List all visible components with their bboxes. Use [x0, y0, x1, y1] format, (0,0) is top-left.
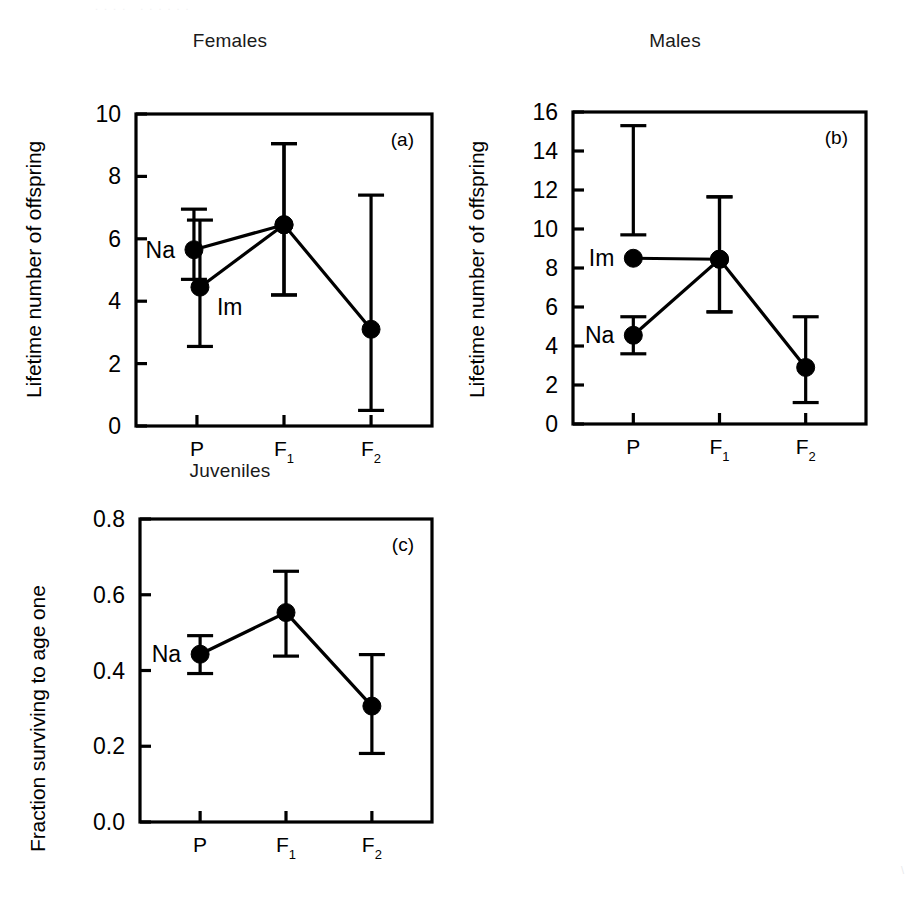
series-inline-label: Na: [585, 322, 615, 348]
plot-frame: [140, 519, 432, 822]
x-tick-label: F1: [709, 435, 729, 464]
corner-artifact: \: [901, 864, 904, 876]
x-tick-label: F2: [362, 833, 382, 862]
panel-label: (c): [392, 534, 414, 555]
y-tick-label: 0: [545, 411, 558, 437]
x-tick-label: F1: [276, 833, 296, 862]
data-point-marker: [277, 604, 295, 622]
x-tick-subscript: 1: [722, 449, 729, 464]
y-tick-label: 4: [108, 288, 121, 314]
data-point-marker: [275, 216, 293, 234]
y-tick-label: 0.6: [93, 582, 125, 608]
series-inline-label: Im: [217, 294, 243, 320]
data-point-marker: [191, 278, 209, 296]
series-inline-label: Na: [152, 641, 182, 667]
panel-c-plot: 0.00.20.40.60.8PF1F2(c)Na: [0, 460, 460, 880]
y-tick-label: 8: [545, 255, 558, 281]
error-bar: [620, 126, 646, 235]
data-point-marker: [191, 645, 209, 663]
x-tick-subscript: 1: [289, 847, 296, 862]
y-tick-label: 2: [108, 351, 121, 377]
series-line: [200, 225, 284, 287]
data-point-marker: [624, 249, 642, 267]
panel-label: (a): [391, 129, 414, 150]
panel-b-plot: 0246810121416PF1F2(b)ImNa: [445, 30, 905, 430]
panel-label: (b): [825, 127, 848, 148]
y-tick-label: 12: [532, 177, 558, 203]
y-tick-label: 0.2: [93, 733, 125, 759]
figure-root: .... ...... \ Females Lifetime number of…: [0, 0, 922, 898]
series-line: [633, 258, 719, 259]
x-tick-label: F2: [796, 435, 816, 464]
x-tick-label: P: [190, 437, 204, 460]
panel-a-plot: 0246810PF1F2(a)NaIm: [0, 30, 460, 430]
data-point-marker: [624, 326, 642, 344]
y-tick-label: 6: [108, 226, 121, 252]
x-tick-label: P: [193, 833, 207, 856]
y-tick-label: 0.8: [93, 506, 125, 532]
y-tick-label: 2: [545, 372, 558, 398]
data-point-marker: [185, 241, 203, 259]
y-tick-label: 10: [532, 216, 558, 242]
y-tick-label: 0: [108, 413, 121, 439]
data-point-marker: [362, 320, 380, 338]
x-tick-subscript: 2: [808, 449, 815, 464]
data-point-marker: [797, 358, 815, 376]
y-tick-label: 10: [95, 101, 121, 127]
data-point-marker: [711, 250, 729, 268]
error-bar: [358, 195, 384, 410]
panel-males: Males Lifetime number of offspring 02468…: [445, 30, 905, 430]
data-point-marker: [363, 697, 381, 715]
x-tick-label: P: [626, 435, 640, 458]
series-inline-label: Im: [589, 245, 615, 271]
series-inline-label: Na: [146, 237, 176, 263]
panel-juveniles: Juveniles Fraction surviving to age one …: [0, 460, 460, 880]
y-tick-label: 16: [532, 99, 558, 125]
x-tick-subscript: 2: [375, 847, 382, 862]
y-tick-label: 8: [108, 163, 121, 189]
top-edge-artifact: .... ......: [95, 0, 195, 12]
y-tick-label: 4: [545, 333, 558, 359]
y-tick-label: 14: [532, 138, 558, 164]
panel-females: Females Lifetime number of offspring 024…: [0, 30, 460, 430]
y-tick-label: 0.4: [93, 658, 125, 684]
y-tick-label: 0.0: [93, 809, 125, 835]
y-tick-label: 6: [545, 294, 558, 320]
